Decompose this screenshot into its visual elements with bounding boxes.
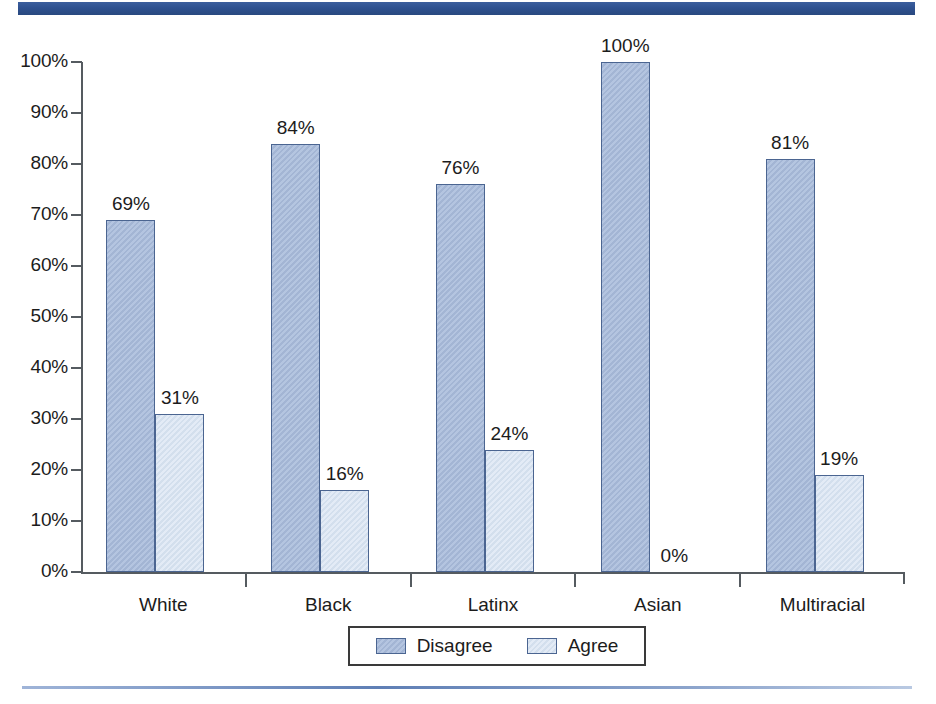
bar-value-label: 69% <box>90 193 171 215</box>
legend-item-disagree[interactable]: Disagree <box>376 635 493 657</box>
y-axis-tick <box>71 367 82 369</box>
x-axis-category-label: Black <box>246 594 411 616</box>
y-axis-tick <box>71 469 82 471</box>
x-axis-tick <box>410 574 412 587</box>
legend-item-agree[interactable]: Agree <box>527 635 619 657</box>
x-axis-category-label: Latinx <box>411 594 576 616</box>
y-axis-tick <box>71 112 82 114</box>
x-axis-tick <box>574 574 576 587</box>
y-axis-tick-label: 20% <box>6 458 68 480</box>
legend-label-disagree: Disagree <box>417 635 493 657</box>
y-axis-tick-label: 80% <box>6 152 68 174</box>
x-axis-category-label: White <box>81 594 246 616</box>
y-axis-tick <box>71 520 82 522</box>
x-axis-category-label: Asian <box>575 594 740 616</box>
bar-disagree-asian[interactable] <box>601 62 650 572</box>
y-axis-tick-label: 50% <box>6 305 68 327</box>
y-axis-tick-label: 90% <box>6 101 68 123</box>
y-axis-tick <box>71 61 82 63</box>
chart-legend: Disagree Agree <box>348 626 646 666</box>
bar-value-label: 0% <box>634 545 715 567</box>
bar-value-label: 84% <box>255 117 336 139</box>
bar-agree-white[interactable] <box>155 414 204 572</box>
y-axis-tick-label: 0% <box>6 560 68 582</box>
bar-value-label: 81% <box>750 132 831 154</box>
bar-disagree-latinx[interactable] <box>436 184 485 572</box>
y-axis-tick <box>71 418 82 420</box>
x-axis-tick <box>245 574 247 587</box>
bar-value-label: 16% <box>304 463 385 485</box>
x-axis-category-label: Multiracial <box>740 594 905 616</box>
bar-disagree-multiracial[interactable] <box>766 159 815 572</box>
y-axis-tick <box>71 571 82 573</box>
x-axis-right-cap <box>903 572 905 584</box>
bar-agree-latinx[interactable] <box>485 450 534 572</box>
y-axis-tick-label: 100% <box>6 50 68 72</box>
x-axis-line <box>81 572 905 574</box>
bar-value-label: 100% <box>585 35 666 57</box>
bar-chart: 0%10%20%30%40%50%60%70%80%90%100% WhiteB… <box>0 28 936 628</box>
bar-agree-multiracial[interactable] <box>815 475 864 572</box>
bar-value-label: 19% <box>799 448 880 470</box>
legend-swatch-agree <box>527 638 557 654</box>
x-axis-tick <box>739 574 741 587</box>
top-decorative-rule <box>18 2 915 15</box>
y-axis-tick <box>71 214 82 216</box>
y-axis-line <box>81 62 83 574</box>
y-axis-tick-label: 70% <box>6 203 68 225</box>
y-axis-tick <box>71 163 82 165</box>
bar-disagree-black[interactable] <box>271 144 320 572</box>
bottom-decorative-rule <box>22 686 912 689</box>
bar-value-label: 24% <box>469 423 550 445</box>
y-axis-tick-label: 40% <box>6 356 68 378</box>
y-axis-tick-label: 60% <box>6 254 68 276</box>
y-axis-tick <box>71 316 82 318</box>
bar-agree-black[interactable] <box>320 490 369 572</box>
y-axis-tick-label: 10% <box>6 509 68 531</box>
legend-swatch-disagree <box>376 638 406 654</box>
bar-value-label: 76% <box>420 157 501 179</box>
y-axis-tick-label: 30% <box>6 407 68 429</box>
legend-label-agree: Agree <box>568 635 619 657</box>
bar-value-label: 31% <box>139 387 220 409</box>
y-axis-tick <box>71 265 82 267</box>
